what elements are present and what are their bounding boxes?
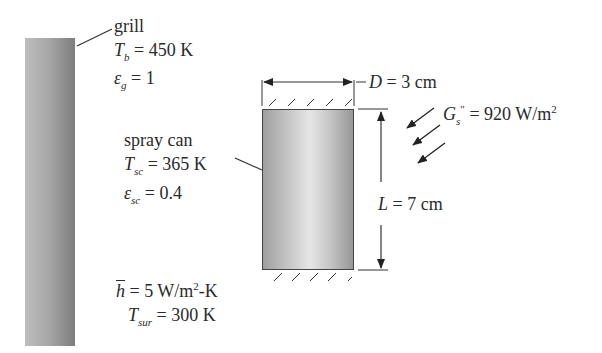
- bottom-insulation-hatch: [274, 273, 352, 281]
- solar-irradiation-arrows: [407, 108, 445, 163]
- grill-leader-line: [77, 29, 112, 46]
- convection-coefficient: h = 5 W/m2-K: [116, 281, 218, 300]
- grill-label: grill: [114, 17, 144, 35]
- spray-can-temperature: Tsc = 365 K: [124, 155, 207, 177]
- length-label: L = 7 cm: [376, 195, 445, 213]
- surroundings-temperature: Tsur = 300 K: [128, 306, 216, 328]
- spray-can-emissivity: εsc = 0.4: [124, 184, 182, 206]
- diameter-label: D = 3 cm: [369, 73, 437, 91]
- grill-temperature: Tb = 450 K: [114, 41, 193, 63]
- spray-can-label: spray can: [124, 131, 192, 149]
- grill-emissivity: εg = 1: [114, 69, 155, 91]
- top-insulation-hatch: [269, 99, 352, 106]
- can-leader-line: [235, 158, 262, 170]
- diagram-lines: [0, 0, 602, 353]
- solar-irradiation-label: Gs″ = 920 W/m2: [443, 104, 557, 127]
